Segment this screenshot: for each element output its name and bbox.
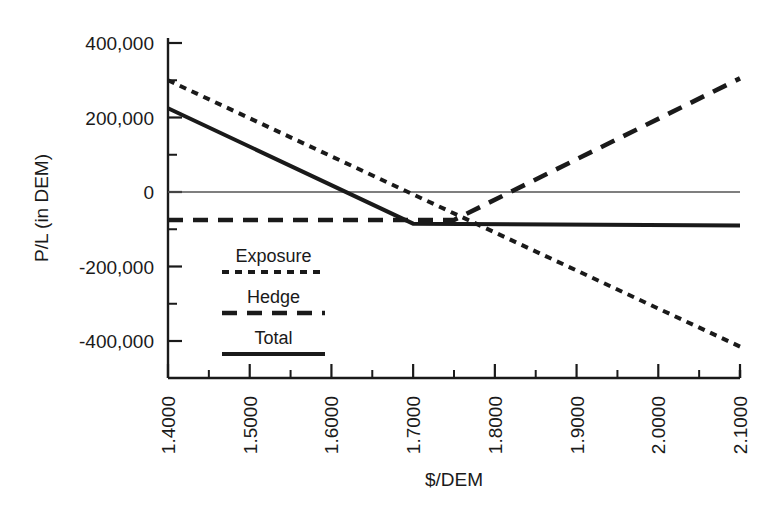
x-tick-label: 1.4000 — [158, 396, 179, 454]
y-axis-title: P/L (in DEM) — [31, 154, 52, 262]
x-axis-title: $/DEM — [425, 469, 483, 490]
legend-label-hedge: Hedge — [247, 287, 300, 307]
x-tick-label: 2.1000 — [730, 396, 751, 454]
legend-label-total: Total — [254, 328, 292, 348]
chart-figure: 400,000200,0000-200,000-400,000 1.40001.… — [0, 0, 776, 510]
plot-canvas: 400,000200,0000-200,000-400,000 1.40001.… — [0, 0, 776, 510]
y-tick-label: 400,000 — [85, 33, 154, 54]
series-line-total — [168, 108, 740, 225]
chart-legend: ExposureHedgeTotal — [222, 246, 325, 354]
x-tick-label: 1.9000 — [567, 396, 588, 454]
x-tick-label: 1.8000 — [485, 396, 506, 454]
axis-group — [168, 38, 740, 378]
y-tick-label: -400,000 — [79, 331, 154, 352]
x-tick-label: 1.5000 — [240, 396, 261, 454]
y-tick-label: 0 — [143, 182, 154, 203]
y-tick-label: -200,000 — [79, 257, 154, 278]
x-tick-label: 1.7000 — [403, 396, 424, 454]
x-axis-tick-labels: 1.40001.50001.60001.70001.80001.90002.00… — [158, 396, 751, 454]
legend-label-exposure: Exposure — [235, 246, 311, 266]
y-axis-tick-labels: 400,000200,0000-200,000-400,000 — [79, 33, 154, 352]
x-tick-label: 1.6000 — [321, 396, 342, 454]
y-tick-label: 200,000 — [85, 108, 154, 129]
x-tick-label: 2.0000 — [648, 396, 669, 454]
